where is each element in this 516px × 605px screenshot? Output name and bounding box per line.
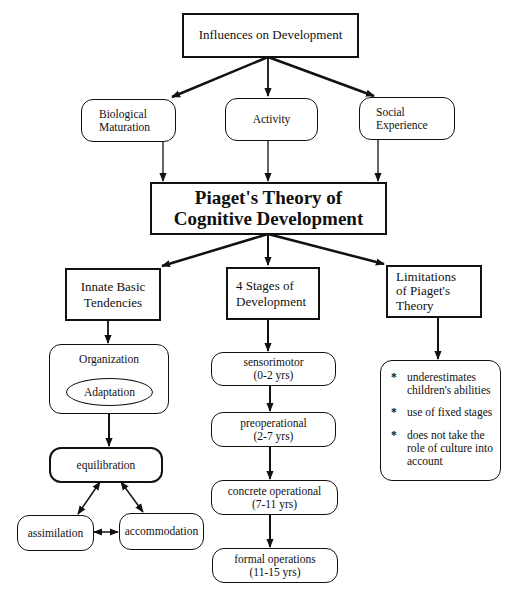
stage-box-formal-operations: formal operations (11-15 yrs) [212,548,338,583]
equilibration-label: equilibration [77,459,136,472]
social-experience-box: Social Experience [359,97,455,140]
branch-label-line2: Development [236,294,306,310]
limitation-item: use of fixed stages [387,406,494,419]
equilibration-box: equilibration [49,447,163,483]
stage-name: preoperational [240,417,306,430]
stage-name: sensorimotor [243,356,303,369]
influence-label-line1: Biological [99,108,147,121]
branch-label-line2: of Piaget's [396,284,450,298]
activity-box: Activity [225,98,318,141]
adaptation-ellipse: Adaptation [66,378,153,406]
limitations-list-box: underestimates children's abilities use … [380,360,501,481]
stage-name: formal operations [234,553,315,566]
piagets-theory-box: Piaget's Theory of Cognitive Development [150,182,387,235]
stage-ages: (11-15 yrs) [250,566,301,579]
branch-label-line3: Theory [396,299,434,313]
main-title-line2: Cognitive Development [174,209,363,230]
stage-ages: (2-7 yrs) [254,430,294,443]
stage-box-concrete-operational: concrete operational (7-11 yrs) [211,480,338,515]
adaptation-label: Adaptation [84,386,135,398]
influence-label-line1: Social [376,106,405,119]
limitations-box: Limitations of Piaget's Theory [386,265,482,318]
branch-label-line2: Tendencies [84,295,142,311]
accommodation-label: accommodation [125,525,198,538]
stage-box-preoperational: preoperational (2-7 yrs) [211,412,336,447]
limitation-item: underestimates children's abilities [387,371,494,397]
stage-name: concrete operational [228,485,322,498]
four-stages-box: 4 Stages of Development [226,267,320,320]
branch-label-line1: 4 Stages of [236,278,294,294]
biological-maturation-box: Biological Maturation [81,99,176,142]
influences-on-development-box: Influences on Development [182,13,359,58]
assimilation-box: assimilation [17,515,94,551]
branch-label-line1: Limitations [396,270,456,284]
influence-label-line2: Maturation [99,121,150,134]
stage-box-sensorimotor: sensorimotor (0-2 yrs) [211,352,336,386]
innate-basic-tendencies-box: Innate Basic Tendencies [65,268,161,321]
accommodation-box: accommodation [119,513,204,550]
organization-label: Organization [79,353,139,366]
influence-label-line1: Activity [253,113,291,126]
branch-label-line1: Innate Basic [81,279,146,295]
assimilation-label: assimilation [28,527,84,540]
main-title-line1: Piaget's Theory of [195,188,342,209]
influence-label-line2: Experience [376,119,428,132]
root-label: Influences on Development [199,28,343,42]
stage-ages: (7-11 yrs) [252,498,297,511]
stage-ages: (0-2 yrs) [254,369,294,382]
limitation-item: does not take the role of culture into a… [387,429,494,469]
limitations-list: underestimates children's abilities use … [387,371,494,477]
